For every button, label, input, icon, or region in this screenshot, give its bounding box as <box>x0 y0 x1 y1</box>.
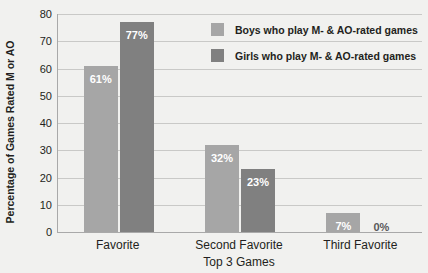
bar: 23% <box>241 169 275 232</box>
y-axis-tick-label: 20 <box>4 172 52 183</box>
legend-item: Girls who play M- & AO-rated games <box>211 45 423 66</box>
y-axis-tick-label: 10 <box>4 199 52 210</box>
bar-value-label: 7% <box>326 220 360 232</box>
y-axis-tick-label: 80 <box>4 9 52 20</box>
y-axis-tick-label: 60 <box>4 63 52 74</box>
y-axis-tick-label: 30 <box>4 145 52 156</box>
bar: 7% <box>326 213 360 232</box>
legend-swatch-icon <box>211 23 224 36</box>
gridline <box>58 14 422 15</box>
y-axis-tick-label: 70 <box>4 36 52 47</box>
bar: 32% <box>205 145 239 232</box>
legend: Boys who play M- & AO-rated gamesGirls w… <box>211 19 423 71</box>
y-axis-tick-label: 40 <box>4 118 52 129</box>
x-axis-title: Top 3 Games <box>57 255 421 269</box>
legend-item: Boys who play M- & AO-rated games <box>211 19 423 40</box>
legend-label: Boys who play M- & AO-rated games <box>235 24 418 36</box>
bar-chart: Percentage of Games Rated M or AO 010203… <box>0 0 428 273</box>
bar: 61% <box>84 66 118 232</box>
y-axis-tick-label: 50 <box>4 90 52 101</box>
x-axis-category-label: Third Favorite <box>300 238 421 252</box>
x-axis-category-label: Favorite <box>57 238 178 252</box>
bar-value-label: 0% <box>364 221 398 233</box>
bar-value-label: 23% <box>241 176 275 188</box>
y-axis-tick-labels: 01020304050607080 <box>0 14 52 232</box>
bar-value-label: 77% <box>120 29 154 41</box>
x-axis-category-label: Second Favorite <box>178 238 299 252</box>
y-axis-tick-label: 0 <box>4 227 52 238</box>
bar-value-label: 32% <box>205 152 239 164</box>
legend-swatch-icon <box>211 49 224 62</box>
bar-value-label: 61% <box>84 73 118 85</box>
bar: 77% <box>120 22 154 232</box>
legend-label: Girls who play M- & AO-rated games <box>235 50 416 62</box>
